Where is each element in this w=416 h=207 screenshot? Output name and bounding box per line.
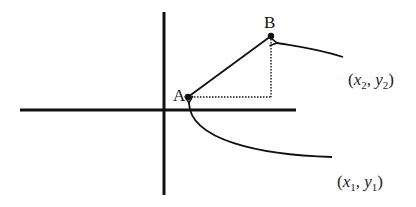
point-b — [268, 33, 274, 39]
segment-ab — [188, 36, 271, 97]
point-a-coords: (x1, y1) — [337, 172, 383, 193]
point-b-label: B — [264, 13, 275, 32]
point-b-coords: (x2, y2) — [348, 70, 394, 91]
arrow-to-b — [277, 43, 343, 57]
point-a — [185, 94, 191, 100]
coordinate-diagram: A B (x2, y2) (x1, y1) — [0, 0, 416, 207]
point-a-label: A — [173, 86, 186, 105]
